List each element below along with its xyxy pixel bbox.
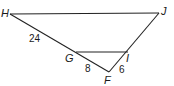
vertex-label-j: J — [160, 5, 167, 17]
triangle-diagram: H J G I F 24 8 6 — [0, 0, 174, 86]
vertex-label-g: G — [65, 52, 74, 64]
measure-if: 6 — [119, 64, 125, 75]
vertex-label-h: H — [1, 7, 9, 19]
vertex-label-i: I — [126, 52, 129, 64]
vertex-label-f: F — [104, 74, 112, 86]
segment-jf — [109, 13, 159, 72]
measure-hg: 24 — [29, 33, 41, 44]
segment-hj — [10, 13, 159, 14]
segment-hf — [10, 14, 109, 72]
measure-gf: 8 — [85, 63, 91, 74]
